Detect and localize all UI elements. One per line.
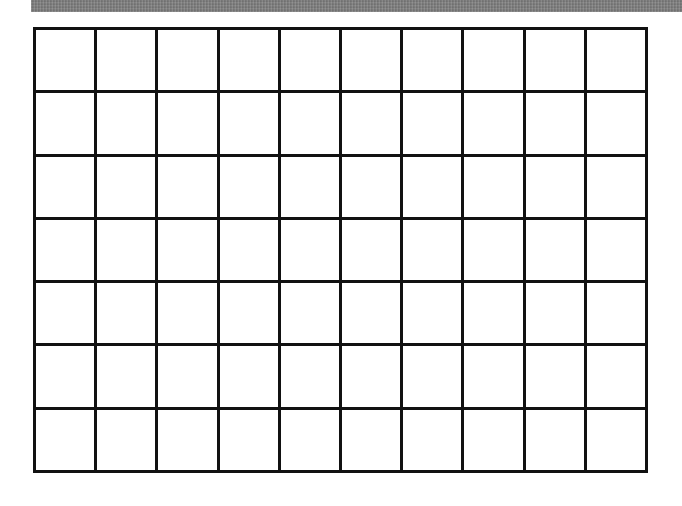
grid-cell[interactable] bbox=[585, 218, 646, 281]
grid-cell[interactable] bbox=[340, 29, 401, 92]
grid-cell[interactable] bbox=[157, 29, 218, 92]
grid-cell[interactable] bbox=[218, 155, 279, 218]
grid-body bbox=[35, 29, 647, 472]
grid-cell[interactable] bbox=[279, 29, 340, 92]
grid-cell[interactable] bbox=[35, 345, 96, 408]
grid-cell[interactable] bbox=[585, 282, 646, 345]
grid-cell[interactable] bbox=[524, 29, 585, 92]
grid-cell[interactable] bbox=[279, 155, 340, 218]
table-row bbox=[35, 218, 647, 281]
grid-cell[interactable] bbox=[35, 218, 96, 281]
grid-cell[interactable] bbox=[96, 92, 157, 155]
grid-cell[interactable] bbox=[463, 155, 524, 218]
grid-cell[interactable] bbox=[96, 282, 157, 345]
grid-cell[interactable] bbox=[35, 282, 96, 345]
grid-cell[interactable] bbox=[96, 408, 157, 471]
grid-cell[interactable] bbox=[463, 29, 524, 92]
grid-cell[interactable] bbox=[35, 92, 96, 155]
grid-cell[interactable] bbox=[585, 29, 646, 92]
grid-cell[interactable] bbox=[340, 155, 401, 218]
grid-cell[interactable] bbox=[35, 155, 96, 218]
grid-cell[interactable] bbox=[96, 155, 157, 218]
grid-cell[interactable] bbox=[218, 29, 279, 92]
grid-cell[interactable] bbox=[340, 345, 401, 408]
grid-cell[interactable] bbox=[463, 282, 524, 345]
grid-cell[interactable] bbox=[218, 92, 279, 155]
grid-cell[interactable] bbox=[157, 408, 218, 471]
grid-cell[interactable] bbox=[35, 408, 96, 471]
grid-cell[interactable] bbox=[279, 92, 340, 155]
grid-cell[interactable] bbox=[463, 218, 524, 281]
grid-cell[interactable] bbox=[463, 92, 524, 155]
grid-cell[interactable] bbox=[340, 282, 401, 345]
grid-cell[interactable] bbox=[157, 282, 218, 345]
grid-container bbox=[33, 27, 648, 473]
table-row bbox=[35, 282, 647, 345]
grid-cell[interactable] bbox=[463, 345, 524, 408]
grid-cell[interactable] bbox=[340, 408, 401, 471]
grid-cell[interactable] bbox=[524, 218, 585, 281]
grid-cell[interactable] bbox=[463, 408, 524, 471]
grid-cell[interactable] bbox=[218, 408, 279, 471]
grid-cell[interactable] bbox=[585, 408, 646, 471]
page-root bbox=[0, 0, 682, 506]
grid-cell[interactable] bbox=[218, 218, 279, 281]
grid-cell[interactable] bbox=[402, 218, 463, 281]
grid-cell[interactable] bbox=[279, 218, 340, 281]
grid-cell[interactable] bbox=[96, 345, 157, 408]
grid-cell[interactable] bbox=[340, 92, 401, 155]
grid-cell[interactable] bbox=[524, 408, 585, 471]
grid-cell[interactable] bbox=[524, 155, 585, 218]
grid-cell[interactable] bbox=[585, 92, 646, 155]
grid-cell[interactable] bbox=[402, 92, 463, 155]
table-row bbox=[35, 345, 647, 408]
grid-cell[interactable] bbox=[524, 282, 585, 345]
grid-cell[interactable] bbox=[157, 218, 218, 281]
table-row bbox=[35, 92, 647, 155]
grid-cell[interactable] bbox=[218, 282, 279, 345]
grid-cell[interactable] bbox=[524, 345, 585, 408]
grid-cell[interactable] bbox=[157, 92, 218, 155]
top-gray-bar bbox=[31, 0, 682, 12]
grid-cell[interactable] bbox=[585, 345, 646, 408]
grid-cell[interactable] bbox=[340, 218, 401, 281]
grid-cell[interactable] bbox=[585, 155, 646, 218]
grid-cell[interactable] bbox=[96, 29, 157, 92]
grid-cell[interactable] bbox=[157, 345, 218, 408]
table-row bbox=[35, 29, 647, 92]
grid-cell[interactable] bbox=[35, 29, 96, 92]
grid-cell[interactable] bbox=[402, 29, 463, 92]
empty-grid-table[interactable] bbox=[33, 27, 648, 473]
table-row bbox=[35, 155, 647, 218]
grid-cell[interactable] bbox=[402, 282, 463, 345]
grid-cell[interactable] bbox=[96, 218, 157, 281]
grid-cell[interactable] bbox=[524, 92, 585, 155]
grid-cell[interactable] bbox=[279, 408, 340, 471]
grid-cell[interactable] bbox=[279, 345, 340, 408]
grid-cell[interactable] bbox=[279, 282, 340, 345]
grid-cell[interactable] bbox=[402, 345, 463, 408]
table-row bbox=[35, 408, 647, 471]
grid-cell[interactable] bbox=[157, 155, 218, 218]
grid-cell[interactable] bbox=[402, 155, 463, 218]
grid-cell[interactable] bbox=[218, 345, 279, 408]
grid-cell[interactable] bbox=[402, 408, 463, 471]
